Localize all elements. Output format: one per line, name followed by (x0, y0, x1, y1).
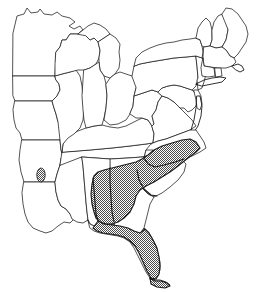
state-outlines-layer (13, 8, 248, 287)
isolated-population-marker-arkansas (37, 168, 45, 182)
range-polygon-florida (93, 221, 160, 279)
state-rhode-island (215, 68, 222, 77)
cape-cod-outline (232, 64, 244, 72)
range-polygon-florida-keys (150, 278, 170, 288)
distribution-map-figure (0, 0, 258, 292)
state-ohio (104, 72, 138, 125)
map-canvas (0, 0, 258, 292)
state-iowa (13, 76, 60, 101)
